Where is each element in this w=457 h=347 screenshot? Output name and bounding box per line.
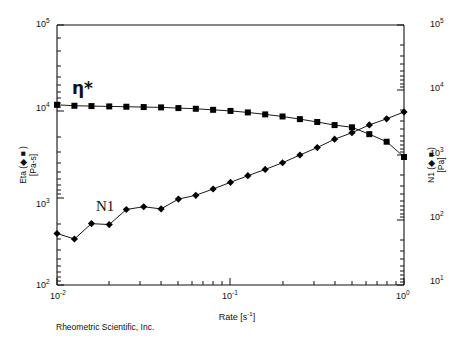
marker-square xyxy=(88,103,94,109)
plot-frame xyxy=(57,25,404,285)
y-axis-left-title: Eta (◆ ■ ) [Pa-s] xyxy=(18,117,38,213)
y-axis-left-title-line2: [Pa-s] xyxy=(28,117,38,213)
marker-square xyxy=(228,108,234,114)
marker-square xyxy=(401,154,407,160)
marker-square xyxy=(158,104,164,110)
marker-square xyxy=(332,122,338,128)
marker-diamond xyxy=(157,205,164,212)
marker-square xyxy=(175,105,181,111)
marker-diamond xyxy=(314,144,321,151)
series-label-eta-star: η* xyxy=(72,78,93,98)
marker-square xyxy=(141,104,147,110)
marker-diamond xyxy=(262,166,269,173)
data-series-layer xyxy=(53,102,407,243)
marker-square xyxy=(210,107,216,113)
x-tick-1e-1: 10-1 xyxy=(222,292,238,301)
marker-square xyxy=(106,103,112,109)
marker-square xyxy=(384,139,390,145)
marker-square xyxy=(262,111,268,117)
marker-square xyxy=(245,109,251,115)
marker-diamond xyxy=(227,179,234,186)
marker-square xyxy=(280,113,286,119)
x-axis-title: Rate [s-1] xyxy=(182,312,292,322)
footer-credit: Rheometric Scientific, Inc. xyxy=(56,322,154,332)
marker-square xyxy=(193,106,199,112)
rheology-chart-figure: 105 104 103 102 105 104 103 102 101 10-2… xyxy=(0,0,457,347)
y-axis-right-title-line2: [Pa] xyxy=(436,117,446,213)
y-right-tick-1e5: 105 xyxy=(430,20,444,29)
marker-square xyxy=(297,116,303,122)
y-right-tick-1e1: 101 xyxy=(430,277,444,286)
y-left-tick-1e2: 102 xyxy=(36,281,50,290)
x-axis-title-tail: ] xyxy=(253,312,256,322)
marker-diamond xyxy=(366,121,373,128)
y-axis-left-ticks xyxy=(57,25,64,285)
marker-diamond xyxy=(210,185,217,192)
y-left-tick-1e5: 105 xyxy=(36,20,50,29)
marker-diamond xyxy=(400,108,407,115)
marker-square xyxy=(71,103,77,109)
series-label-n1: N1 xyxy=(96,198,114,215)
marker-square xyxy=(314,119,320,125)
marker-diamond xyxy=(192,192,199,199)
y-right-tick-1e2: 102 xyxy=(430,213,444,222)
y-axis-left-title-line1: Eta (◆ ■ ) xyxy=(18,117,28,213)
x-axis-title-base: Rate [s xyxy=(219,312,248,322)
marker-diamond xyxy=(140,203,147,210)
marker-diamond xyxy=(296,151,303,158)
x-tick-1e0: 100 xyxy=(396,292,410,301)
y-left-tick-1e3: 103 xyxy=(36,200,50,209)
marker-square xyxy=(123,104,129,110)
y-axis-right-title: N1 (◆ ■ ) [Pa] xyxy=(426,117,446,213)
series-eta-star xyxy=(54,102,407,160)
y-axis-right-title-line1: N1 (◆ ■ ) xyxy=(426,117,436,213)
marker-square xyxy=(54,102,60,108)
x-tick-1e-2: 10-2 xyxy=(50,292,66,301)
marker-diamond xyxy=(175,195,182,202)
marker-diamond xyxy=(244,172,251,179)
x-axis-ticks xyxy=(57,278,404,285)
y-right-tick-1e4: 104 xyxy=(430,84,444,93)
y-left-tick-1e4: 104 xyxy=(36,104,50,113)
marker-diamond xyxy=(279,159,286,166)
marker-square xyxy=(366,131,372,137)
marker-diamond xyxy=(383,115,390,122)
marker-diamond xyxy=(53,230,60,237)
marker-diamond xyxy=(331,136,338,143)
